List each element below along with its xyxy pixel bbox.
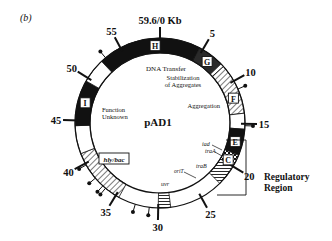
panel-label: (b) <box>20 12 32 24</box>
tick-label: 35 <box>101 207 112 218</box>
label-function: Function <box>102 106 126 113</box>
tick-label: 10 <box>245 67 256 78</box>
oriT-leader <box>184 172 196 178</box>
gene-label-hly-bac: hly/bac <box>104 156 125 164</box>
label-of-aggregates: of Aggregates <box>165 81 202 88</box>
ring-segment <box>160 38 200 61</box>
tick-label: 50 <box>67 63 78 74</box>
traA-leader <box>215 152 222 156</box>
gene-label-traB: traB <box>196 163 207 169</box>
plasmid-map: (b) 510152025303540455055 HGFECI 59.6/0 … <box>0 0 332 241</box>
region-letter: H <box>152 42 159 51</box>
region-letter: E <box>233 138 238 147</box>
tick-label: 45 <box>51 115 62 126</box>
tick-label: 40 <box>63 167 74 178</box>
gene-label-oriT: oriT <box>174 168 184 174</box>
region-letter: I <box>84 99 87 108</box>
transposon-pin-head <box>146 213 150 217</box>
transposon-pin-head <box>98 192 102 196</box>
tick-label: 15 <box>259 119 270 130</box>
tick-label: 55 <box>106 26 117 37</box>
transposon-pin-head <box>77 167 81 171</box>
ring-segment <box>230 113 245 129</box>
region-letter: C <box>225 156 231 165</box>
regulatory-region-line1: Regulatory <box>264 172 310 182</box>
regulatory-region-line2: Region <box>264 183 293 193</box>
transposon-pin-head <box>131 210 135 214</box>
label-unknown: Unknown <box>102 113 128 120</box>
gene-label-uvr: uvr <box>161 181 170 187</box>
transposon-pin-head <box>87 181 91 185</box>
region-letter: F <box>231 95 236 104</box>
gene-label-iad: iad <box>202 141 211 147</box>
gene-label-traA: traA <box>205 148 216 154</box>
ring-segment <box>158 192 171 208</box>
tick-label: 5 <box>210 28 215 39</box>
transposon-pin-head <box>251 124 255 128</box>
transposon-pin-head <box>98 50 102 54</box>
label-aggregation: Aggregation <box>188 102 221 109</box>
label-stabilization: Stabilization <box>167 74 201 81</box>
tick-mark <box>63 120 79 121</box>
plasmid-name: pAD1 <box>144 116 172 128</box>
origin-label: 59.6/0 Kb <box>138 15 181 26</box>
label-dna-transfer: DNA Transfer <box>146 65 187 73</box>
region-letter: G <box>204 58 210 67</box>
tick-label: 30 <box>153 222 164 233</box>
tick-label: 25 <box>205 209 216 220</box>
transposon-pin-head <box>243 84 247 88</box>
